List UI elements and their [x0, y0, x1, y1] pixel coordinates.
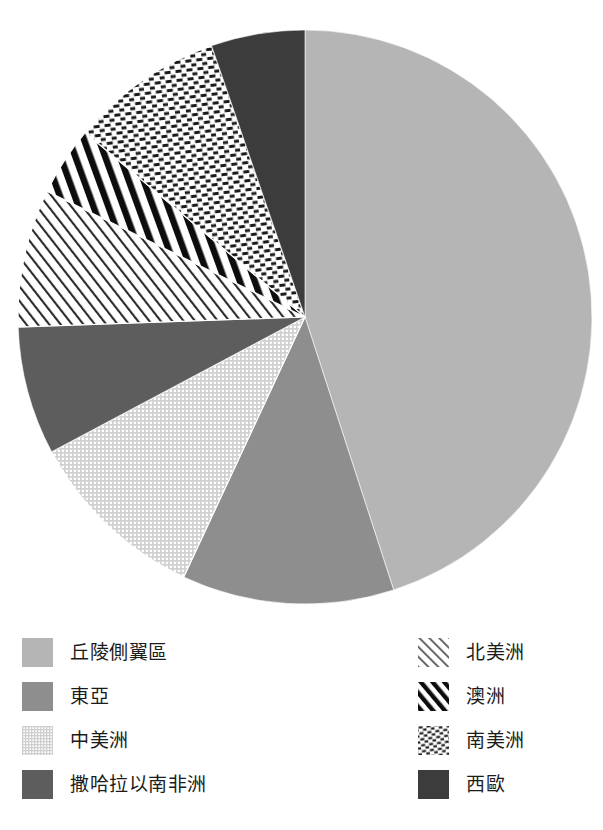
legend-item[interactable]: 西歐	[418, 762, 603, 806]
legend-item[interactable]: 東亞	[22, 674, 302, 718]
legend-item[interactable]: 北美洲	[418, 630, 603, 674]
legend-column-right: 北美洲	[418, 630, 603, 806]
legend-swatch	[22, 726, 53, 755]
chart-legend: 丘陵側翼區	[0, 630, 603, 830]
legend-item-label: 丘陵側翼區	[70, 642, 168, 663]
legend-swatch	[418, 726, 449, 755]
legend-swatch	[418, 770, 449, 799]
legend-item-label: 南美洲	[466, 730, 525, 751]
legend-swatch	[418, 638, 449, 667]
legend-item[interactable]: 撒哈拉以南非洲	[22, 762, 302, 806]
legend-item-label: 西歐	[466, 774, 505, 795]
legend-swatch	[22, 638, 53, 667]
legend-item-label: 中美洲	[70, 730, 129, 751]
legend-item-label: 北美洲	[466, 642, 525, 663]
pie-chart-svg	[0, 0, 603, 630]
legend-item[interactable]: 南美洲	[418, 718, 603, 762]
legend-item[interactable]: 丘陵側翼區	[22, 630, 302, 674]
legend-item[interactable]: 澳洲	[418, 674, 603, 718]
legend-column-left: 丘陵側翼區	[22, 630, 302, 806]
legend-swatch	[418, 682, 449, 711]
legend-swatch	[22, 770, 53, 799]
legend-item-label: 東亞	[70, 686, 109, 707]
legend-item[interactable]: 中美洲	[22, 718, 302, 762]
legend-item-label: 澳洲	[466, 686, 505, 707]
legend-item-label: 撒哈拉以南非洲	[70, 774, 207, 795]
legend-swatch	[22, 682, 53, 711]
pie-chart-figure: 丘陵側翼區	[0, 0, 603, 830]
pie-slices-group	[18, 30, 592, 604]
